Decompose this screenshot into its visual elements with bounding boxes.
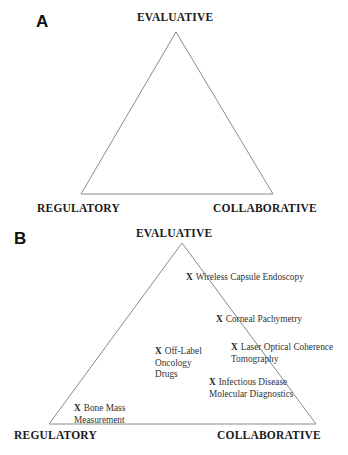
item-label-line-2: Measurement — [74, 415, 125, 427]
item-label: Corneal Pachymetry — [226, 314, 302, 324]
x-marker: X — [231, 342, 238, 352]
item-bone-mass-measurement: XBone Mass Measurement — [74, 403, 125, 426]
item-label-line-3: Drugs — [155, 369, 202, 381]
item-infectious-disease-molecular-diagnostics: XInfectious Disease Molecular Diagnostic… — [209, 377, 293, 400]
item-label: Wireless Capsule Endoscopy — [196, 272, 304, 282]
item-label-line-1: Infectious Disease — [219, 377, 287, 387]
item-wireless-capsule-endoscopy: XWireless Capsule Endoscopy — [186, 272, 304, 284]
panel-b-vertex-regulatory: REGULATORY — [14, 429, 97, 441]
panel-a-vertex-collaborative: COLLABORATIVE — [213, 202, 317, 214]
item-corneal-pachymetry: XCorneal Pachymetry — [216, 314, 302, 326]
panel-a-vertex-regulatory: REGULATORY — [37, 202, 120, 214]
x-marker: X — [209, 377, 216, 387]
panel-a-label: A — [36, 12, 48, 32]
x-marker: X — [155, 346, 162, 356]
item-label-line-1: Bone Mass — [84, 403, 126, 413]
item-off-label-oncology-drugs: XOff-Label Oncology Drugs — [155, 346, 202, 381]
item-label-line-2: Oncology — [155, 358, 202, 370]
x-marker: X — [74, 403, 81, 413]
item-laser-optical-coherence-tomography: XLaser Optical Coherence Tomography — [231, 342, 333, 365]
panel-b-label: B — [14, 229, 26, 249]
item-label-line-1: Laser Optical Coherence — [241, 342, 333, 352]
panel-a-vertex-evaluative: EVALUATIVE — [137, 11, 213, 23]
triangle-a — [81, 32, 273, 194]
panel-b-vertex-collaborative: COLLABORATIVE — [217, 429, 321, 441]
x-marker: X — [186, 272, 193, 282]
item-label-line-1: Off-Label — [165, 346, 202, 356]
item-label-line-2: Tomography — [231, 354, 333, 366]
panel-b-vertex-evaluative: EVALUATIVE — [136, 227, 212, 239]
x-marker: X — [216, 314, 223, 324]
item-label-line-2: Molecular Diagnostics — [209, 389, 293, 401]
